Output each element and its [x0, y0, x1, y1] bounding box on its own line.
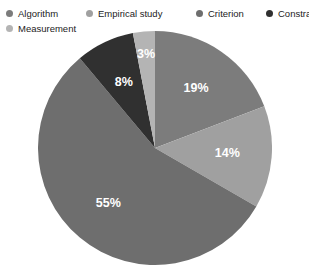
- legend-label-constraint: Constraint: [278, 8, 309, 19]
- pie-svg: 19%14%55%8%3%: [38, 31, 272, 265]
- legend-label-algorithm: Algorithm: [18, 8, 58, 19]
- legend-item-criterion[interactable]: Criterion: [196, 6, 266, 21]
- legend-item-empirical-study[interactable]: Empirical study: [86, 6, 196, 21]
- legend-swatch-icon-measurement: [6, 25, 13, 32]
- pie-plot-area: 19%14%55%8%3%: [38, 31, 272, 265]
- legend-swatch-icon-criterion: [196, 10, 203, 17]
- legend-item-algorithm[interactable]: Algorithm: [0, 6, 86, 21]
- pie-slice-value-criterion: 55%: [96, 196, 121, 210]
- legend-label-empirical-study: Empirical study: [98, 8, 162, 19]
- pie-slice-value-measurement: 3%: [137, 47, 155, 61]
- pie-slice-value-algorithm: 19%: [184, 81, 209, 95]
- legend-swatch-icon-empirical-study: [86, 10, 93, 17]
- pie-chart-figure: Algorithm Empirical study Criterion Cons…: [0, 0, 309, 279]
- pie-slice-value-constraint: 8%: [115, 75, 133, 89]
- legend-item-constraint[interactable]: Constraint: [266, 6, 309, 21]
- pie-slice-value-empirical-study: 14%: [215, 146, 240, 160]
- legend-label-criterion: Criterion: [208, 8, 244, 19]
- legend-swatch-icon-algorithm: [6, 10, 13, 17]
- legend-swatch-icon-constraint: [266, 10, 273, 17]
